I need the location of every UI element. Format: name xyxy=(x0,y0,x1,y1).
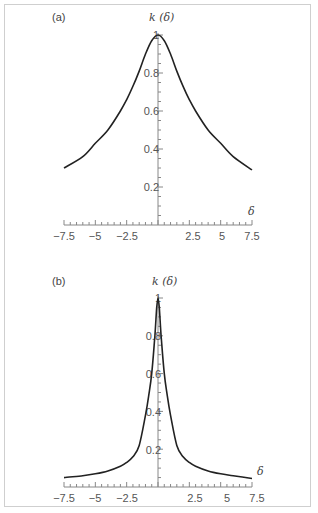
y-tick-label: 0.6 xyxy=(146,368,161,380)
x-axis-title-b: δ xyxy=(257,465,264,478)
y-tick-label: 0.4 xyxy=(144,143,159,155)
y-tick-label: 0.8 xyxy=(144,67,159,79)
x-tick-label: 7.5 xyxy=(249,492,264,504)
chart-b: (b) k (δ) δ 0.2 0.4 0.6 0.8 1 −7.5 −5 −2… xyxy=(52,275,265,504)
y-tick-label: 0.4 xyxy=(146,406,161,418)
y-tick-label: 0.8 xyxy=(146,330,161,342)
x-tick-label: 2.5 xyxy=(185,230,200,242)
figure: (a) k (δ) δ 0.2 0.4 0.6 0.8 1 −7.5 −5 −2… xyxy=(0,0,318,513)
y-tick-label: 0.2 xyxy=(146,444,161,456)
x-tick-label: −7.5 xyxy=(53,230,75,242)
x-tick-label: −7.5 xyxy=(53,492,75,504)
x-tick-label: −5 xyxy=(89,230,102,242)
axes-b xyxy=(64,296,252,487)
x-tick-label: 5 xyxy=(219,230,225,242)
chart-a: (a) k (δ) δ 0.2 0.4 0.6 0.8 1 −7.5 −5 −2… xyxy=(52,11,260,242)
y-axis-title-b: k (δ) xyxy=(152,275,177,288)
x-tick-labels-b: −7.5 −5 −2.5 2.5 5 7.5 xyxy=(53,492,265,504)
x-tick-label: 2.5 xyxy=(187,492,202,504)
x-tick-labels-a: −7.5 −5 −2.5 2.5 5 7.5 xyxy=(53,230,260,242)
x-tick-label: −2.5 xyxy=(116,492,138,504)
panel-label-b: (b) xyxy=(52,275,65,287)
y-tick-label: 0.2 xyxy=(144,181,159,193)
panel-label-a: (a) xyxy=(52,11,65,23)
x-tick-label: −2.5 xyxy=(116,230,138,242)
x-axis-title-a: δ xyxy=(248,205,255,218)
y-tick-label: 0.6 xyxy=(144,105,159,117)
x-tick-label: −5 xyxy=(89,492,102,504)
axes-a xyxy=(64,33,252,225)
x-tick-label: 7.5 xyxy=(244,230,259,242)
x-tick-label: 5 xyxy=(224,492,230,504)
y-axis-title-a: k (δ) xyxy=(149,11,174,24)
